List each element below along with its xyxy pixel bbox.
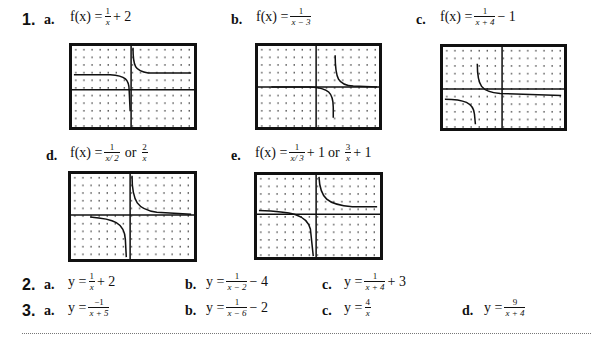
denominator: x + 4 <box>504 307 525 318</box>
graph-plot <box>72 46 194 127</box>
eq-lhs: f(x) = <box>70 145 102 161</box>
equation-1c: f(x) = 1x + 4 − 1 <box>440 6 516 27</box>
denominator: x + 5 <box>88 307 109 318</box>
equation-3a: y = −1x + 5 <box>68 297 111 318</box>
eq-tail: − 2 <box>249 300 267 316</box>
fraction: 1x − 3 <box>290 6 311 27</box>
eq-tail: + 2 <box>97 274 115 290</box>
fraction: 1x <box>104 6 111 27</box>
eq-alt-tail: + 1 <box>353 145 371 161</box>
graph-1e <box>254 172 383 260</box>
fraction: 1x/ 3 <box>289 142 304 163</box>
item-label-1b: b. <box>231 12 242 28</box>
equation-1d: f(x) = 1x/ 2 or 2x <box>70 142 150 163</box>
item-label-1a: a. <box>44 12 55 28</box>
eq-tail: + 1 <box>307 145 325 161</box>
eq-tail: + 3 <box>387 274 405 290</box>
numerator: 9 <box>512 297 519 307</box>
numerator: 3 <box>345 142 352 152</box>
denominator: x <box>365 307 371 318</box>
denominator: x − 3 <box>290 16 311 27</box>
numerator: 4 <box>364 297 371 307</box>
denominator: x/ 2 <box>104 152 119 163</box>
graph-plot <box>443 47 564 128</box>
or-text: or <box>125 145 137 161</box>
fraction: 1x + 4 <box>364 271 385 292</box>
equation-2b: y = 1x − 2 − 4 <box>206 271 268 292</box>
numerator: 1 <box>294 142 301 152</box>
numerator: 1 <box>482 6 489 16</box>
problem-number-2: 2. <box>22 276 35 294</box>
eq-lhs: y = <box>68 274 86 290</box>
item-label-3b: b. <box>185 303 196 319</box>
equation-3c: y = 4x <box>344 297 373 318</box>
numerator: 1 <box>234 297 241 307</box>
denominator: x <box>345 152 351 163</box>
eq-tail: − 1 <box>497 9 515 25</box>
item-label-3a: a. <box>44 303 55 319</box>
denominator: x − 2 <box>226 281 247 292</box>
fraction: −1x + 5 <box>88 297 109 318</box>
fraction: 1x − 6 <box>226 297 247 318</box>
item-label-2a: a. <box>44 277 55 293</box>
eq-lhs: y = <box>206 274 224 290</box>
dotted-divider <box>22 333 591 334</box>
numerator: 1 <box>234 271 241 281</box>
problem-number-3: 3. <box>22 302 35 320</box>
denominator: x − 6 <box>226 307 247 318</box>
graph-1d <box>68 171 197 262</box>
equation-2a: y = 1x + 2 <box>68 271 115 292</box>
numerator: 1 <box>88 271 95 281</box>
problem-number-1: 1. <box>22 11 35 29</box>
eq-lhs: f(x) = <box>256 9 288 25</box>
or-text: or <box>328 145 340 161</box>
graph-1b <box>255 43 382 130</box>
equation-1e: f(x) = 1x/ 3 + 1 or 3x + 1 <box>255 142 372 163</box>
graph-1a <box>69 43 197 130</box>
equation-1a: f(x) = 1x + 2 <box>70 6 131 27</box>
alt-fraction: 2x <box>141 142 148 163</box>
eq-lhs: y = <box>344 274 362 290</box>
eq-tail: + 2 <box>113 9 131 25</box>
eq-lhs: f(x) = <box>70 9 102 25</box>
eq-lhs: y = <box>206 300 224 316</box>
graph-1c <box>440 44 567 131</box>
eq-lhs: f(x) = <box>440 9 472 25</box>
eq-lhs: f(x) = <box>255 145 287 161</box>
denominator: x + 4 <box>364 281 385 292</box>
item-label-1e: e. <box>231 148 241 164</box>
fraction: 1x + 4 <box>474 6 495 27</box>
graph-plot <box>71 174 194 259</box>
numerator: 2 <box>141 142 148 152</box>
eq-lhs: y = <box>344 300 362 316</box>
equation-2c: y = 1x + 4 + 3 <box>344 271 406 292</box>
denominator: x <box>89 281 95 292</box>
eq-lhs: y = <box>68 300 86 316</box>
item-label-2b: b. <box>185 277 196 293</box>
eq-tail: − 4 <box>249 274 267 290</box>
item-label-3c: c. <box>322 303 332 319</box>
graph-plot <box>258 46 379 127</box>
denominator: x + 4 <box>474 16 495 27</box>
fraction: 1x <box>88 271 95 292</box>
equation-3b: y = 1x − 6 − 2 <box>206 297 268 318</box>
alt-fraction: 3x <box>345 142 352 163</box>
fraction: 1x/ 2 <box>104 142 119 163</box>
item-label-3d: d. <box>462 303 473 319</box>
equation-3d: y = 9x + 4 <box>484 297 527 318</box>
item-label-1c: c. <box>416 12 426 28</box>
numerator: 1 <box>298 6 305 16</box>
numerator: 1 <box>109 142 116 152</box>
equation-1b: f(x) = 1x − 3 <box>256 6 313 27</box>
denominator: x/ 3 <box>289 152 304 163</box>
fraction: 9x + 4 <box>504 297 525 318</box>
numerator: 1 <box>372 271 379 281</box>
denominator: x <box>142 152 148 163</box>
fraction: 4x <box>364 297 371 318</box>
denominator: x <box>105 16 111 27</box>
item-label-1d: d. <box>46 148 57 164</box>
numerator: 1 <box>104 6 111 16</box>
numerator: −1 <box>93 297 105 307</box>
graph-plot <box>257 175 380 257</box>
fraction: 1x − 2 <box>226 271 247 292</box>
